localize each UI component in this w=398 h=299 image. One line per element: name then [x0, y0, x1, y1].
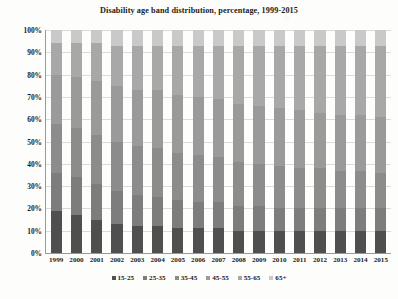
- bar-segment-65+[interactable]: [132, 30, 143, 46]
- bar-segment-45-55[interactable]: [51, 75, 62, 124]
- bar-segment-45-55[interactable]: [71, 77, 82, 128]
- bar-segment-35-45[interactable]: [152, 148, 163, 197]
- bar-segment-35-45[interactable]: [71, 128, 82, 177]
- bar-segment-45-55[interactable]: [172, 95, 183, 153]
- bar-segment-55-65[interactable]: [253, 46, 264, 106]
- stacked-bar[interactable]: [294, 30, 305, 253]
- bar-segment-25-35[interactable]: [294, 208, 305, 230]
- bar-segment-35-45[interactable]: [193, 155, 204, 202]
- bar-segment-65+[interactable]: [193, 30, 204, 46]
- bar-segment-15-25[interactable]: [152, 226, 163, 253]
- bar-segment-55-65[interactable]: [193, 46, 204, 97]
- bar-segment-65+[interactable]: [294, 30, 305, 46]
- bar-segment-15-25[interactable]: [314, 231, 325, 253]
- bar-segment-45-55[interactable]: [335, 115, 346, 171]
- bar-segment-45-55[interactable]: [111, 86, 122, 142]
- stacked-bar[interactable]: [355, 30, 366, 253]
- bar-segment-45-55[interactable]: [355, 115, 366, 171]
- bar-segment-65+[interactable]: [51, 30, 62, 43]
- bar-segment-65+[interactable]: [71, 30, 82, 43]
- bar-segment-25-35[interactable]: [193, 202, 204, 229]
- bar-segment-55-65[interactable]: [233, 46, 244, 104]
- bar-segment-55-65[interactable]: [91, 43, 102, 81]
- legend-item-55-65[interactable]: 55-65: [238, 274, 261, 282]
- bar-segment-25-35[interactable]: [111, 191, 122, 224]
- stacked-bar[interactable]: [91, 30, 102, 253]
- bar-segment-15-25[interactable]: [132, 226, 143, 253]
- stacked-bar[interactable]: [172, 30, 183, 253]
- bar-segment-25-35[interactable]: [233, 206, 244, 231]
- stacked-bar[interactable]: [213, 30, 224, 253]
- bar-segment-65+[interactable]: [253, 30, 264, 46]
- bar-segment-65+[interactable]: [152, 30, 163, 46]
- bar-segment-35-45[interactable]: [111, 142, 122, 191]
- bar-segment-15-25[interactable]: [71, 215, 82, 253]
- bar-segment-55-65[interactable]: [294, 46, 305, 111]
- bar-segment-25-35[interactable]: [152, 197, 163, 226]
- bar-segment-55-65[interactable]: [355, 46, 366, 115]
- bar-segment-35-45[interactable]: [213, 157, 224, 202]
- stacked-bar[interactable]: [314, 30, 325, 253]
- bar-segment-45-55[interactable]: [152, 90, 163, 148]
- bar-segment-35-45[interactable]: [355, 171, 366, 209]
- bar-segment-65+[interactable]: [314, 30, 325, 46]
- stacked-bar[interactable]: [111, 30, 122, 253]
- bar-segment-35-45[interactable]: [375, 173, 386, 209]
- bar-segment-35-45[interactable]: [294, 168, 305, 208]
- bar-segment-45-55[interactable]: [233, 104, 244, 162]
- bar-segment-15-25[interactable]: [294, 231, 305, 253]
- bar-segment-65+[interactable]: [274, 30, 285, 46]
- bar-segment-55-65[interactable]: [335, 46, 346, 115]
- legend-item-65+[interactable]: 65+: [269, 274, 286, 282]
- bar-segment-25-35[interactable]: [355, 208, 366, 230]
- bar-segment-55-65[interactable]: [71, 43, 82, 76]
- bar-segment-45-55[interactable]: [213, 99, 224, 157]
- bar-segment-55-65[interactable]: [152, 46, 163, 91]
- bar-segment-45-55[interactable]: [294, 110, 305, 168]
- bar-segment-45-55[interactable]: [274, 108, 285, 166]
- bar-segment-35-45[interactable]: [132, 146, 143, 195]
- bar-segment-25-35[interactable]: [335, 208, 346, 230]
- stacked-bar[interactable]: [253, 30, 264, 253]
- stacked-bar[interactable]: [193, 30, 204, 253]
- bar-segment-65+[interactable]: [233, 30, 244, 46]
- stacked-bar[interactable]: [152, 30, 163, 253]
- bar-segment-25-35[interactable]: [314, 208, 325, 230]
- bar-segment-45-55[interactable]: [132, 90, 143, 146]
- bar-segment-65+[interactable]: [335, 30, 346, 46]
- bar-segment-35-45[interactable]: [335, 171, 346, 209]
- bar-segment-15-25[interactable]: [375, 231, 386, 253]
- stacked-bar[interactable]: [71, 30, 82, 253]
- legend-item-25-35[interactable]: 25-35: [143, 274, 166, 282]
- bar-segment-65+[interactable]: [213, 30, 224, 46]
- bar-segment-35-45[interactable]: [253, 164, 264, 206]
- bar-segment-15-25[interactable]: [253, 231, 264, 253]
- bar-segment-15-25[interactable]: [91, 220, 102, 253]
- bar-segment-25-35[interactable]: [253, 206, 264, 231]
- stacked-bar[interactable]: [132, 30, 143, 253]
- bar-segment-15-25[interactable]: [172, 228, 183, 253]
- bar-segment-65+[interactable]: [375, 30, 386, 46]
- legend-item-35-45[interactable]: 35-45: [175, 274, 198, 282]
- bar-segment-55-65[interactable]: [172, 46, 183, 95]
- bar-segment-55-65[interactable]: [274, 46, 285, 108]
- bar-segment-25-35[interactable]: [71, 177, 82, 215]
- bar-segment-25-35[interactable]: [51, 173, 62, 211]
- bar-segment-35-45[interactable]: [91, 135, 102, 184]
- bar-segment-55-65[interactable]: [111, 46, 122, 86]
- bar-segment-45-55[interactable]: [193, 97, 204, 155]
- bar-segment-35-45[interactable]: [51, 124, 62, 173]
- legend-item-15-25[interactable]: 15-25: [112, 274, 135, 282]
- stacked-bar[interactable]: [335, 30, 346, 253]
- bar-segment-55-65[interactable]: [375, 46, 386, 117]
- bar-segment-65+[interactable]: [172, 30, 183, 46]
- bar-segment-65+[interactable]: [355, 30, 366, 46]
- bar-segment-55-65[interactable]: [213, 46, 224, 100]
- bar-segment-15-25[interactable]: [233, 231, 244, 253]
- bar-segment-65+[interactable]: [91, 30, 102, 43]
- bar-segment-25-35[interactable]: [132, 195, 143, 226]
- bar-segment-25-35[interactable]: [91, 184, 102, 220]
- bar-segment-45-55[interactable]: [253, 106, 264, 164]
- bar-segment-55-65[interactable]: [314, 46, 325, 113]
- bar-segment-15-25[interactable]: [193, 228, 204, 253]
